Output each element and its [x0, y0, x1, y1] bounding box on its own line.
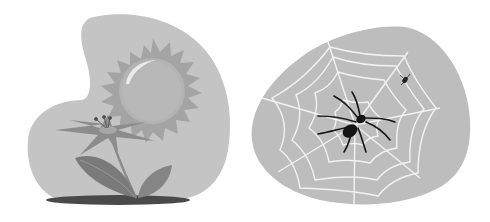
spider-web-illustration [252, 27, 470, 205]
ground-shadow [46, 195, 190, 205]
sun-flower-illustration [28, 14, 231, 205]
illustration-canvas [0, 0, 490, 222]
